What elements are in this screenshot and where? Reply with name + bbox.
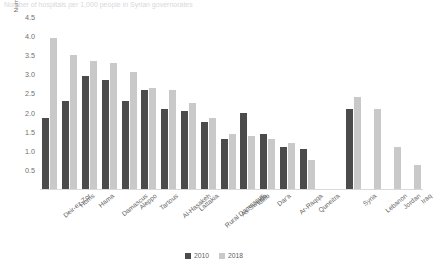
bar bbox=[288, 143, 295, 189]
x-axis-tick-label: Hama bbox=[98, 192, 116, 209]
bar bbox=[70, 55, 77, 189]
x-axis-tick-label: Syria bbox=[361, 192, 377, 207]
bar bbox=[394, 147, 401, 189]
bar-group bbox=[406, 17, 421, 189]
legend-swatch-icon bbox=[219, 253, 225, 259]
bar bbox=[240, 113, 247, 189]
bar bbox=[102, 80, 109, 189]
bar bbox=[161, 109, 168, 189]
bar-group bbox=[346, 17, 361, 189]
y-axis-tick-label: 0.5 bbox=[25, 165, 35, 174]
bar bbox=[42, 118, 49, 189]
y-axis-tick-label: 4.0 bbox=[25, 32, 35, 41]
bar bbox=[90, 61, 97, 189]
y-axis-title: Number of hospitals per 1,000 people bbox=[12, 0, 19, 35]
bar-group bbox=[201, 17, 216, 189]
bar bbox=[209, 118, 216, 189]
x-axis-tick-label: Dar'a bbox=[275, 192, 291, 207]
bar-group bbox=[366, 17, 381, 189]
bar bbox=[169, 90, 176, 189]
bar-group bbox=[181, 17, 196, 189]
bar-group bbox=[300, 17, 315, 189]
y-axis-tick-label: 2.0 bbox=[25, 108, 35, 117]
chart-legend: 20102018 bbox=[0, 252, 428, 259]
bar-group bbox=[240, 17, 255, 189]
x-axis-labels: Deir-ez-ZorHomsHamaDamascusAleppoTartous… bbox=[40, 190, 423, 242]
bar-group bbox=[161, 17, 176, 189]
bar-group bbox=[221, 17, 236, 189]
bar bbox=[248, 136, 255, 190]
bar-group bbox=[62, 17, 77, 189]
bar bbox=[110, 63, 117, 189]
y-axis-tick-label: 2.5 bbox=[25, 89, 35, 98]
bar-group bbox=[42, 17, 57, 189]
bar bbox=[141, 90, 148, 189]
chart-title: Number of hospitals per 1,000 people in … bbox=[0, 0, 428, 9]
bar bbox=[149, 88, 156, 189]
bar bbox=[260, 134, 267, 189]
x-axis-tick-label: Tartous bbox=[158, 192, 179, 211]
bar bbox=[280, 147, 287, 189]
x-axis-tick-label: Homs bbox=[78, 192, 96, 208]
y-axis-tick-label: 3.0 bbox=[25, 70, 35, 79]
bar bbox=[130, 72, 137, 189]
bar bbox=[346, 109, 353, 189]
bar bbox=[82, 76, 89, 189]
bar bbox=[374, 109, 381, 189]
bar-group bbox=[102, 17, 117, 189]
bar bbox=[354, 97, 361, 189]
bar bbox=[181, 111, 188, 189]
bar bbox=[414, 165, 421, 189]
bar-group bbox=[141, 17, 156, 189]
bar bbox=[201, 122, 208, 189]
bar bbox=[229, 134, 236, 189]
bar bbox=[122, 101, 129, 189]
legend-item[interactable]: 2010 bbox=[185, 252, 209, 259]
bar-group bbox=[122, 17, 137, 189]
legend-item[interactable]: 2018 bbox=[219, 252, 243, 259]
legend-swatch-icon bbox=[185, 253, 191, 259]
bar-group bbox=[260, 17, 275, 189]
bar bbox=[221, 139, 228, 189]
bar bbox=[300, 149, 307, 189]
bar bbox=[268, 139, 275, 189]
y-axis-tick-label: 1.0 bbox=[25, 146, 35, 155]
bar bbox=[50, 38, 57, 189]
bar-group bbox=[386, 17, 401, 189]
y-axis-tick-label: 4.5 bbox=[25, 13, 35, 22]
plot-area: Number of hospitals per 1,000 people 0.5… bbox=[40, 17, 423, 189]
x-axis-tick-label: Iraq bbox=[420, 192, 433, 205]
bar-group bbox=[82, 17, 97, 189]
bar-series-container bbox=[40, 17, 423, 189]
bar bbox=[308, 160, 315, 189]
legend-label: 2018 bbox=[228, 252, 243, 259]
legend-label: 2010 bbox=[194, 252, 209, 259]
bar bbox=[62, 101, 69, 189]
y-axis-tick-label: 1.5 bbox=[25, 127, 35, 136]
bar-group bbox=[280, 17, 295, 189]
y-axis-tick-label: 3.5 bbox=[25, 51, 35, 60]
bar bbox=[189, 103, 196, 189]
